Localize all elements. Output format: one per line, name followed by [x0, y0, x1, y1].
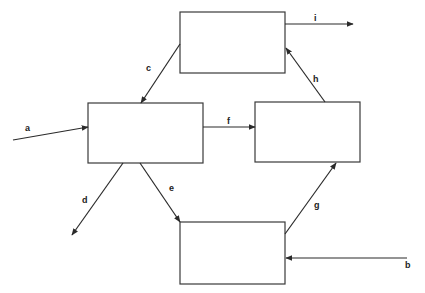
edge-f: f	[203, 116, 255, 127]
edge-b: b	[286, 258, 411, 270]
edge-a: a	[13, 123, 88, 140]
edge-label-d: d	[82, 195, 88, 205]
edge-label-e: e	[169, 183, 174, 193]
edge-g: g	[285, 163, 336, 234]
edge-i: i	[285, 13, 353, 24]
edge-label-b: b	[405, 260, 411, 270]
top-block	[180, 12, 285, 73]
bottom-block	[180, 222, 285, 284]
edge-label-g: g	[314, 200, 320, 210]
left-block	[88, 103, 203, 163]
edge-label-a: a	[25, 123, 31, 133]
flow-diagram: a c i h f d e g b	[0, 0, 425, 293]
edge-label-c: c	[146, 63, 151, 73]
edge-h: h	[286, 48, 325, 102]
edge-label-i: i	[314, 13, 317, 23]
edge-d: d	[72, 163, 123, 235]
edge-e: e	[140, 163, 180, 222]
edge-c: c	[141, 44, 180, 103]
edge-label-f: f	[227, 116, 231, 126]
edge-label-h: h	[313, 74, 319, 84]
right-block	[255, 102, 360, 162]
